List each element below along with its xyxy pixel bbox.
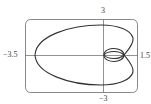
x-min-label: −3.5 bbox=[3, 51, 18, 59]
x-max-label: 1.5 bbox=[140, 52, 150, 60]
y-min-label: −3 bbox=[99, 95, 108, 103]
polar-plot bbox=[0, 0, 151, 104]
y-max-label: 3 bbox=[101, 7, 105, 15]
polar-curve bbox=[35, 25, 133, 85]
plot-frame bbox=[26, 20, 138, 93]
